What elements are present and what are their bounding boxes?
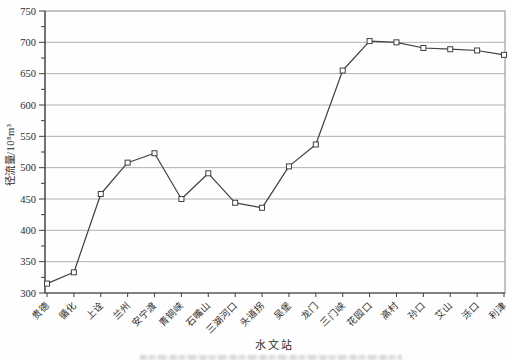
- y-tick-label: 400: [20, 225, 36, 236]
- y-tick-label: 350: [20, 256, 36, 267]
- data-point-marker: [125, 160, 130, 165]
- runoff-series-line: [47, 41, 504, 284]
- y-tick-label: 650: [20, 68, 36, 79]
- x-tick-label: 循化: [56, 300, 78, 322]
- x-tick-label: 贵德: [29, 300, 51, 322]
- x-tick-label: 艾山: [433, 300, 454, 321]
- y-tick-label: 550: [20, 131, 36, 142]
- x-tick-label: 吴堡: [271, 300, 293, 322]
- data-point-marker: [313, 142, 318, 147]
- data-point-marker: [286, 164, 291, 169]
- y-tick-label: 700: [20, 37, 36, 48]
- data-point-marker: [448, 47, 453, 52]
- data-point-marker: [421, 45, 426, 50]
- data-point-marker: [45, 281, 50, 286]
- data-point-marker: [367, 39, 372, 44]
- y-axis-title: 径流量/10⁸m³: [2, 124, 17, 187]
- data-point-marker: [394, 40, 399, 45]
- data-point-marker: [502, 52, 507, 57]
- x-tick-label: 兰州: [110, 300, 132, 322]
- line-chart-canvas: 300350400450500550600650700750贵德循化上诠兰州安宁…: [0, 0, 512, 360]
- x-tick-label: 龙门: [298, 300, 320, 322]
- y-tick-label: 600: [20, 100, 36, 111]
- y-tick-label: 500: [20, 162, 36, 173]
- y-tick-label: 450: [20, 194, 36, 205]
- data-point-marker: [340, 68, 345, 73]
- x-tick-label: 泺口: [460, 300, 482, 322]
- data-point-marker: [233, 200, 238, 205]
- data-point-marker: [260, 205, 265, 210]
- y-tick-label: 750: [20, 6, 36, 17]
- data-point-marker: [206, 171, 211, 176]
- data-point-marker: [98, 191, 103, 196]
- x-axis-title: 水文站: [255, 336, 294, 352]
- x-tick-label: 花园口: [345, 300, 374, 329]
- plot-border: [45, 11, 505, 293]
- x-tick-label: 利津: [486, 300, 508, 322]
- x-tick-label: 安宁渡: [130, 300, 159, 329]
- data-point-marker: [179, 197, 184, 202]
- x-tick-label: 孙口: [406, 300, 428, 322]
- runoff-line-chart-figure: 300350400450500550600650700750贵德循化上诠兰州安宁…: [0, 0, 512, 360]
- data-point-marker: [71, 270, 76, 275]
- x-tick-label: 头道拐: [237, 300, 266, 329]
- cropped-caption-artifact: [140, 355, 402, 360]
- data-point-marker: [475, 48, 480, 53]
- x-tick-label: 上诠: [83, 300, 105, 322]
- x-tick-label: 青铜峡: [157, 300, 186, 329]
- x-tick-label: 三门峡: [318, 300, 347, 329]
- y-tick-label: 300: [20, 288, 36, 299]
- x-tick-label: 高村: [379, 300, 401, 322]
- data-point-marker: [152, 151, 157, 156]
